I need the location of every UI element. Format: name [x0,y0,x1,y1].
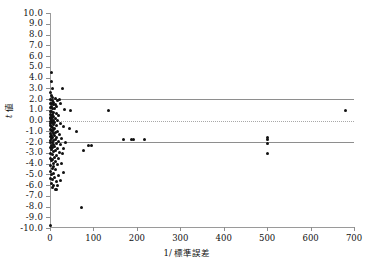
data-point [62,171,65,174]
data-point [59,143,62,146]
data-point [53,107,56,110]
x-tick-label: 500 [247,234,287,243]
y-tick-label: 7.0 [0,41,43,50]
y-tick [46,35,50,36]
y-tick-label: -6.0 [0,181,43,190]
data-point [266,152,269,155]
data-point [75,130,78,133]
x-tick-label: 0 [30,234,70,243]
data-point [344,109,347,112]
data-point [51,178,54,181]
data-point [62,125,65,128]
y-tick [46,217,50,218]
y-tick [46,13,50,14]
y-tick-label: 3.0 [0,84,43,93]
y-tick-label: -4.0 [0,159,43,168]
y-axis-title: t 値 [2,103,14,118]
data-point [58,133,61,136]
data-point [57,157,60,160]
data-point [80,206,83,209]
x-axis-title: 1/ 標準誤差 [0,246,374,258]
x-tick-label: 300 [160,234,200,243]
data-point [57,114,60,117]
data-point [52,162,55,165]
data-point [57,174,60,177]
data-point [60,162,63,165]
x-tick-label: 600 [291,234,331,243]
y-tick-label: 4.0 [0,73,43,82]
y-tick [46,78,50,79]
y-tick-label: -7.0 [0,191,43,200]
y-tick [46,88,50,89]
data-point [82,149,85,152]
y-tick [46,185,50,186]
data-point [59,179,62,182]
data-point [61,87,64,90]
data-point [69,109,72,112]
data-point [266,142,269,145]
data-point [61,152,64,155]
y-tick-label: -1.0 [0,127,43,136]
data-point [62,147,65,150]
x-tick [311,227,312,231]
data-point [63,108,66,111]
data-point [54,168,57,171]
y-tick [46,56,50,57]
y-tick [46,196,50,197]
data-point [68,127,71,130]
x-tick [137,227,138,231]
data-point [56,163,59,166]
data-point [122,138,125,141]
data-point [50,71,53,74]
upper-significance-line [50,99,354,100]
y-tick-label: -10.0 [0,224,43,233]
data-point [50,80,53,83]
lower-significance-line [50,142,354,143]
data-point [59,122,62,125]
data-point [90,144,93,147]
plot-area [50,13,354,228]
y-tick-label: 8.0 [0,30,43,39]
data-point [55,180,58,183]
x-tick-label: 400 [204,234,244,243]
x-tick-label: 700 [334,234,374,243]
data-point [107,109,110,112]
x-tick [50,227,51,231]
y-tick-label: 9.0 [0,19,43,28]
data-point [51,87,54,90]
x-tick [180,227,181,231]
x-tick [354,227,355,231]
x-axis-line [50,227,354,228]
data-point [56,184,59,187]
data-point [59,102,62,105]
x-tick [267,227,268,231]
x-tick [224,227,225,231]
y-tick [46,24,50,25]
y-tick-label: -2.0 [0,138,43,147]
y-tick-label: -8.0 [0,202,43,211]
y-tick [46,45,50,46]
data-point [64,141,67,144]
y-tick-label: -9.0 [0,213,43,222]
data-point [56,119,59,122]
data-point [60,137,63,140]
y-tick-label: -3.0 [0,148,43,157]
funnel-plot-figure: 10.09.08.07.06.05.04.03.02.01.00.0-1.0-2… [0,0,374,266]
y-tick-label: -5.0 [0,170,43,179]
x-tick-label: 200 [117,234,157,243]
data-point [55,188,58,191]
y-tick-label: 5.0 [0,62,43,71]
zero-line [50,121,354,122]
y-tick [46,67,50,68]
data-point [266,138,269,141]
x-tick-label: 100 [73,234,113,243]
y-tick-label: 10.0 [0,9,43,18]
x-tick [93,227,94,231]
y-tick [46,207,50,208]
y-tick-label: 6.0 [0,52,43,61]
